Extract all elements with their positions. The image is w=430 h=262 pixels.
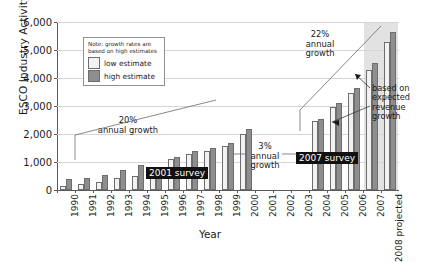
x-tick-label-1990: 1990: [70, 194, 80, 217]
legend-swatch-low-estimate: [88, 57, 100, 69]
y-tick-label: 6,000: [23, 17, 52, 28]
x-tick-mark: [237, 190, 238, 193]
legend-item-high-estimate: high estimate: [88, 70, 160, 82]
x-tick-label-2005: 2005: [340, 194, 350, 217]
legend: Note: growth rates are based on high est…: [83, 37, 165, 86]
x-tick-label-2003: 2003: [304, 194, 314, 217]
bar-high-estimate-1994: [138, 165, 144, 190]
x-tick-label-1991: 1991: [88, 194, 98, 217]
x-axis-title: Year: [150, 228, 270, 240]
x-tick-mark: [345, 190, 346, 193]
x-tick-mark: [147, 190, 148, 193]
y-tick-label: 4,000: [23, 73, 52, 84]
legend-note: Note: growth rates are based on high est…: [88, 41, 160, 55]
survey-tag-2007: 2007 survey: [296, 152, 358, 164]
y-tick-mark: [54, 78, 57, 79]
x-tick-mark: [57, 190, 58, 193]
x-tick-projected-note: projected: [394, 194, 404, 239]
bar-high-estimate-2006: [354, 88, 360, 190]
y-tick-label: 5,000: [23, 45, 52, 56]
x-tick-label-1995: 1995: [160, 194, 170, 217]
bar-high-estimate-1993: [120, 170, 126, 190]
x-tick-mark: [273, 190, 274, 193]
x-tick-label-2007: 2007: [376, 194, 386, 217]
y-tick-mark: [54, 106, 57, 107]
annotation-3-percent-growth: 3% annual growth: [248, 142, 282, 171]
legend-label-low-estimate: low estimate: [104, 59, 152, 68]
x-tick-label-1999: 1999: [232, 194, 242, 217]
x-tick-label-1993: 1993: [124, 194, 134, 217]
y-tick-mark: [54, 22, 57, 23]
x-tick-mark: [219, 190, 220, 193]
x-tick-mark: [291, 190, 292, 193]
gridline: [57, 22, 399, 23]
legend-swatch-high-estimate: [88, 70, 100, 82]
x-tick-mark: [75, 190, 76, 193]
bar-high-estimate-1998: [210, 148, 216, 190]
x-tick-label-1992: 1992: [106, 194, 116, 217]
y-tick-mark: [54, 134, 57, 135]
x-tick-label-1998: 1998: [214, 194, 224, 217]
x-axis-line: [57, 190, 399, 191]
x-tick-label-2008: 2008 projected: [394, 194, 404, 262]
y-tick-label: 3,000: [23, 101, 52, 112]
x-tick-mark: [201, 190, 202, 193]
x-tick-label-1997: 1997: [196, 194, 206, 217]
x-tick-label-2004: 2004: [322, 194, 332, 217]
x-tick-label-2006: 2006: [358, 194, 368, 217]
y-tick-label: 2,000: [23, 129, 52, 140]
bar-high-estimate-1992: [102, 175, 108, 190]
bar-high-estimate-1991: [84, 178, 90, 190]
bar-high-estimate-2005: [336, 103, 342, 190]
annotation-20-percent-growth: 20% annual growth: [88, 116, 168, 135]
x-tick-label-2000: 2000: [250, 194, 260, 217]
y-tick-mark: [54, 50, 57, 51]
x-tick-mark: [363, 190, 364, 193]
x-tick-mark: [129, 190, 130, 193]
legend-label-high-estimate: high estimate: [104, 72, 155, 81]
annotation-based-on-expected-revenue-growth: based on expected revenue growth: [372, 84, 428, 122]
x-tick-mark: [255, 190, 256, 193]
y-tick-mark: [54, 162, 57, 163]
y-tick-label: 1,000: [23, 157, 52, 168]
x-tick-mark: [183, 190, 184, 193]
legend-item-low-estimate: low estimate: [88, 57, 160, 69]
x-tick-label-1994: 1994: [142, 194, 152, 217]
x-tick-label-2002: 2002: [286, 194, 296, 217]
x-tick-mark: [93, 190, 94, 193]
x-tick-label-2001: 2001: [268, 194, 278, 217]
bar-high-estimate-1999: [228, 143, 234, 190]
x-tick-mark: [381, 190, 382, 193]
x-tick-year: 2008: [394, 239, 404, 262]
y-tick-label: 0: [46, 185, 52, 196]
survey-tag-2001: 2001 survey: [146, 167, 208, 179]
bar-high-estimate-1990: [66, 179, 72, 190]
annotation-22-percent-growth: 22% annual growth: [296, 30, 344, 59]
x-tick-mark: [165, 190, 166, 193]
x-tick-mark: [309, 190, 310, 193]
x-tick-mark: [111, 190, 112, 193]
x-tick-mark: [327, 190, 328, 193]
bar-high-estimate-2007: [372, 63, 378, 190]
x-tick-label-1996: 1996: [178, 194, 188, 217]
